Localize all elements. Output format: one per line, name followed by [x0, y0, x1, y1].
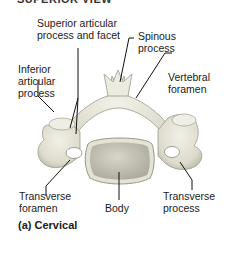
label-line: Transverse — [163, 190, 215, 202]
label-line: process — [163, 202, 215, 214]
label-transverse-foramen: Transverse foramen — [19, 190, 71, 214]
label-line: foramen — [19, 202, 71, 214]
label-line: foramen — [168, 83, 210, 95]
label-line: Spinous — [138, 30, 176, 42]
label-inferior-articular: Inferior articular process — [18, 63, 55, 99]
label-line: articular — [18, 75, 55, 87]
label-superior-articular: Superior articular process and facet — [37, 17, 120, 41]
label-line: Transverse — [19, 190, 71, 202]
label-vertebral-foramen: Vertebral foramen — [168, 71, 210, 95]
label-line: Vertebral — [168, 71, 210, 83]
label-transverse-process: Transverse process — [163, 190, 215, 214]
figure-caption: (a) Cervical — [18, 219, 77, 231]
label-line: process — [18, 87, 55, 99]
label-line: Superior articular — [37, 17, 120, 29]
label-line: process — [138, 42, 176, 54]
right-superior-facet — [172, 114, 196, 126]
label-body: Body — [105, 202, 129, 214]
label-line: process and facet — [37, 29, 120, 41]
label-spinous-process: Spinous process — [138, 30, 176, 54]
right-transverse-foramen — [165, 147, 180, 158]
label-line: Inferior — [18, 63, 55, 75]
left-transverse-foramen — [66, 148, 82, 159]
spinous-process — [104, 70, 132, 96]
